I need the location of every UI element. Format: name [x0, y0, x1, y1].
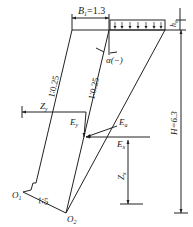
- zy-label: Zy: [40, 101, 48, 112]
- b1-arrow-right: [105, 17, 109, 20]
- surcharge-arrows: [114, 22, 163, 29]
- b1-label: B1=1.3: [78, 5, 105, 17]
- alpha-label: α(−): [106, 55, 123, 65]
- zy-arrow-left: [22, 111, 26, 114]
- alpha-arrow-left: [96, 48, 104, 52]
- ey-label: Ey: [69, 117, 79, 128]
- ey-arrowhead: [83, 133, 86, 137]
- zx-label: Zx: [116, 172, 127, 180]
- alpha-arrow-right: [110, 52, 117, 53]
- ex-label: Ex: [116, 139, 126, 150]
- o2-label: O2: [67, 214, 77, 225]
- retaining-wall-diagram: B1=1.3 h0 α(−) 1∶0.25 1∶0.25 Zy Ey Ea Ex…: [0, 0, 193, 227]
- ea-arrow-line: [86, 126, 117, 137]
- height-label: H=6.3: [169, 111, 179, 136]
- h-arrow-bottom: [180, 209, 183, 213]
- base-slope-label: 1∶5: [37, 195, 50, 207]
- h0-label: h0: [169, 20, 179, 27]
- o1-label: O1: [12, 190, 22, 201]
- ea-label: Ea: [118, 117, 128, 128]
- back-slope-label: 1∶0.25: [86, 76, 101, 100]
- surcharge-load-box: [110, 20, 165, 30]
- zx-arrow-top: [127, 140, 130, 144]
- b1-arrow-left: [72, 17, 76, 20]
- h-arrow-top: [180, 30, 183, 34]
- zx-arrow-bottom: [127, 200, 130, 204]
